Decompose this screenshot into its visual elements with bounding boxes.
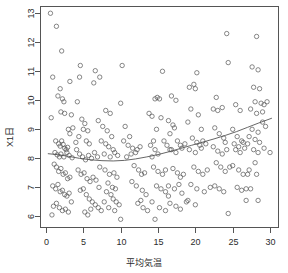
- data-point: [217, 187, 221, 191]
- data-point: [83, 158, 87, 162]
- data-point: [74, 147, 78, 151]
- data-point: [118, 101, 122, 105]
- data-point: [187, 147, 191, 151]
- data-point: [175, 171, 179, 175]
- data-point: [78, 63, 82, 67]
- data-point: [154, 127, 158, 131]
- data-point: [244, 187, 248, 191]
- data-point: [226, 60, 230, 64]
- data-point: [153, 217, 157, 221]
- data-point: [238, 150, 242, 154]
- data-point: [208, 185, 212, 189]
- data-point: [187, 85, 191, 89]
- data-point: [59, 166, 63, 170]
- data-point: [112, 171, 116, 175]
- data-point: [205, 168, 209, 172]
- scatter-plot-figure: 051015202530678910111213 平均気温 X1日: [0, 0, 288, 273]
- data-point: [225, 147, 229, 151]
- data-point: [144, 192, 148, 196]
- data-point: [121, 139, 125, 143]
- data-point: [97, 185, 101, 189]
- data-point: [139, 198, 143, 202]
- data-point: [84, 192, 88, 196]
- data-point: [134, 184, 138, 188]
- data-point: [98, 75, 102, 79]
- y-tick-label: 9: [26, 127, 36, 132]
- data-point: [213, 184, 217, 188]
- data-point: [56, 169, 60, 173]
- data-point: [236, 168, 240, 172]
- data-point: [66, 127, 70, 131]
- data-point: [120, 63, 124, 67]
- data-point: [107, 205, 111, 209]
- data-point: [101, 124, 105, 128]
- data-point: [71, 126, 75, 130]
- data-point: [242, 146, 246, 150]
- data-point: [92, 81, 96, 85]
- data-point: [107, 145, 111, 149]
- data-point: [192, 165, 196, 169]
- data-point: [160, 69, 164, 73]
- data-point: [253, 100, 257, 104]
- data-point: [102, 152, 106, 156]
- data-point: [51, 75, 55, 79]
- data-point: [53, 187, 57, 191]
- data-point: [160, 172, 164, 176]
- data-point: [74, 140, 78, 144]
- y-tick-label: 8: [26, 156, 36, 161]
- data-point: [253, 161, 257, 165]
- data-point: [204, 142, 208, 146]
- data-point: [233, 147, 237, 151]
- data-point: [150, 200, 154, 204]
- data-point: [214, 95, 218, 99]
- plot-canvas: 051015202530678910111213: [0, 0, 288, 273]
- data-point: [244, 198, 248, 202]
- data-point: [245, 172, 249, 176]
- data-point: [104, 108, 108, 112]
- data-point: [251, 85, 255, 89]
- data-point: [126, 143, 130, 147]
- data-point: [68, 79, 72, 83]
- y-tick-label: 12: [26, 37, 36, 47]
- data-point: [260, 110, 264, 114]
- data-point: [110, 134, 114, 138]
- data-point: [56, 182, 60, 186]
- data-point: [235, 185, 239, 189]
- data-point: [99, 139, 103, 143]
- data-point: [148, 143, 152, 147]
- data-point: [202, 190, 206, 194]
- data-point: [48, 11, 52, 15]
- data-point: [263, 124, 267, 128]
- data-point: [223, 140, 227, 144]
- data-point: [216, 149, 220, 153]
- data-point: [213, 126, 217, 130]
- data-point: [189, 107, 193, 111]
- data-point: [153, 147, 157, 151]
- data-point: [163, 208, 167, 212]
- x-tick-label: 20: [190, 237, 200, 247]
- data-point: [248, 107, 252, 111]
- data-point: [195, 71, 199, 75]
- data-point: [235, 134, 239, 138]
- data-point: [127, 134, 131, 138]
- data-point: [106, 181, 110, 185]
- data-point: [256, 130, 260, 134]
- data-point: [92, 150, 96, 154]
- data-point: [223, 169, 227, 173]
- data-point: [62, 111, 66, 115]
- data-point: [151, 165, 155, 169]
- data-point: [177, 182, 181, 186]
- data-point: [123, 124, 127, 128]
- data-point: [256, 150, 260, 154]
- data-point: [180, 191, 184, 195]
- data-point: [132, 163, 136, 167]
- data-point: [256, 68, 260, 72]
- data-point: [69, 200, 73, 204]
- data-point: [76, 168, 80, 172]
- data-point: [102, 200, 106, 204]
- data-point: [220, 152, 224, 156]
- data-point: [178, 207, 182, 211]
- data-point: [181, 172, 185, 176]
- data-point: [59, 49, 63, 53]
- data-point: [159, 187, 163, 191]
